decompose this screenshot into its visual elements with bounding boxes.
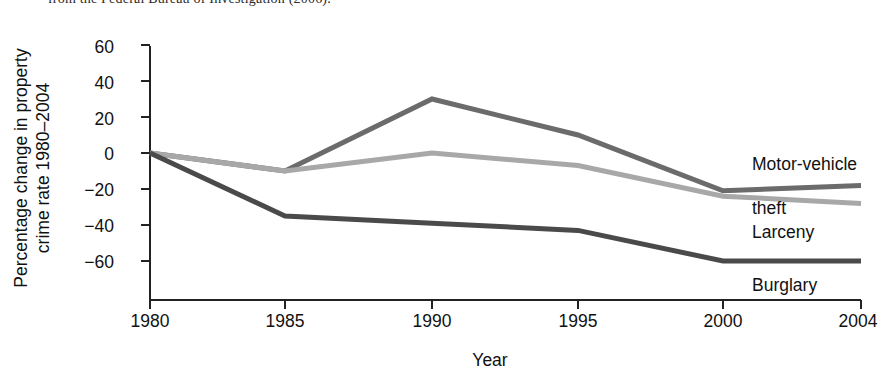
series-label-burglary-line-1: Burglary [752,275,817,297]
series-label-motor-vehicle-theft-line-1: Motor-vehicle [752,154,857,176]
series-label-burglary: Burglary [752,253,817,319]
series-label-larceny-line-1: Larceny [752,222,814,244]
figure-container: from the Federal Bureau of Investigation… [0,0,886,383]
